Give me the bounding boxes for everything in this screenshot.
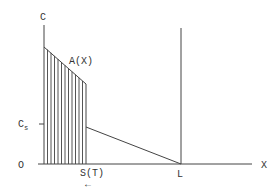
boundary-label-l: L: [177, 169, 183, 180]
diffusion-diagram: C A(X) Cs O S(T) ← L X: [0, 0, 278, 191]
linear-profile: [86, 127, 181, 164]
x-axis-label: X: [261, 160, 267, 171]
curve-label-a-x: A(X): [69, 56, 93, 67]
y-axis-label: C: [40, 12, 46, 23]
cs-label: Cs: [18, 119, 28, 132]
front-label-s-t: S(T): [80, 168, 104, 179]
front-direction-arrow-icon: ←: [85, 179, 91, 190]
origin-label: O: [18, 160, 24, 171]
